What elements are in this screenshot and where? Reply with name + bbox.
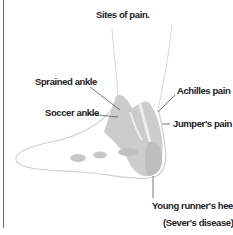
achilles-pain-label: Achilles pain	[177, 85, 230, 96]
severs-disease-label: (Sever's disease)	[163, 217, 233, 228]
jumpers-pain-label: Jumper's pain	[173, 118, 232, 129]
young-runners-heel-label: Young runner's heel	[152, 200, 233, 211]
title-label: Sites of pain.	[96, 9, 150, 20]
soccer-ankle-label: Soccer ankle	[45, 107, 99, 118]
sprained-ankle-label: Sprained ankle	[35, 76, 97, 87]
